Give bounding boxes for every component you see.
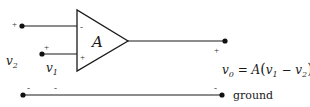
- ground-label: ground: [233, 89, 273, 102]
- v2-label: v2: [6, 54, 18, 70]
- ground-mid-sign: -: [54, 83, 57, 93]
- output-terminal-sign: +: [214, 45, 219, 55]
- v2-terminal-dot: [19, 23, 24, 28]
- v1-label: v1: [46, 61, 58, 77]
- noninverting-input-sign: +: [80, 52, 85, 62]
- ground-right-sign: -: [214, 83, 217, 93]
- output-terminal-dot: [222, 38, 227, 43]
- ground-left-dot: [20, 92, 25, 97]
- output-equation: v0 = A(v1 − v2): [222, 61, 310, 79]
- v1-terminal-sign: +: [44, 42, 49, 52]
- v1-terminal-dot: [39, 51, 44, 56]
- op-amp-diagram: A - + + v2 + v1 + v0 = A(v1 − v2) - - - …: [0, 0, 310, 107]
- gain-label: A: [90, 33, 103, 51]
- v2-terminal-sign: +: [12, 19, 17, 29]
- inverting-input-sign: -: [80, 22, 83, 32]
- ground-right-dot: [219, 92, 224, 97]
- ground-left-sign: -: [27, 83, 30, 93]
